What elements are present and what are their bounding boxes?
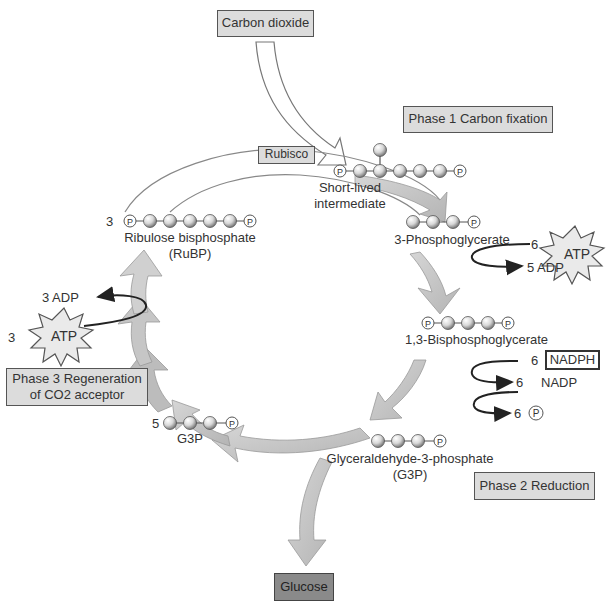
g3p-molecule: P — [372, 435, 447, 448]
atp-phase3-count: 3 — [8, 330, 15, 345]
rubisco-box: Rubisco — [258, 146, 315, 164]
svg-text:P: P — [505, 319, 511, 329]
calvin-cycle-diagram: P P P P P P — [0, 0, 614, 606]
g3p-recycled-label: G3P — [170, 431, 210, 447]
phase1-label-box: Phase 1 Carbon fixation — [403, 106, 553, 133]
phosphate-release-arrow — [474, 392, 518, 413]
phase3-label-line1: Phase 3 Regeneration — [7, 371, 147, 387]
svg-text:P: P — [127, 217, 133, 227]
atp-label-phase1: ATP — [557, 246, 597, 264]
svg-text:P: P — [247, 217, 253, 227]
bpg-molecule: P P — [422, 317, 514, 330]
svg-text:P: P — [457, 167, 463, 177]
nadp-label: NADP — [541, 375, 577, 390]
rubp-molecule: P P — [124, 215, 256, 228]
intermediate-molecule: P P — [334, 144, 466, 178]
nadph-to-nadp-arrow — [472, 361, 518, 382]
g3p-label-line2: (G3P) — [320, 467, 500, 483]
svg-text:P: P — [437, 437, 443, 447]
svg-text:P: P — [471, 218, 477, 228]
diagram-graphics: P P P P P P — [0, 0, 614, 606]
intermediate-label-line2: intermediate — [310, 196, 390, 212]
rubp-count: 3 — [106, 214, 113, 229]
glucose-box: Glucose — [274, 573, 334, 601]
g3p-label: Glyceraldehyde-3-phosphate (G3P) — [320, 451, 500, 484]
carbon-dioxide-box: Carbon dioxide — [217, 10, 314, 37]
intermediate-label-line1: Short-lived — [310, 180, 390, 196]
nadph-box: NADPH — [545, 350, 600, 370]
g3p-recycled-count: 5 — [152, 416, 159, 431]
svg-text:P: P — [337, 167, 343, 177]
pga-label: 3-Phosphoglycerate — [392, 232, 512, 248]
adp-phase3-label: 3 ADP — [42, 290, 79, 305]
svg-text:P: P — [229, 419, 235, 429]
svg-text:P: P — [533, 408, 540, 419]
nadp-count: 6 — [516, 375, 523, 390]
rubp-label-line1: Ribulose bisphosphate — [115, 230, 265, 246]
rubp-label: Ribulose bisphosphate (RuBP) — [115, 230, 265, 263]
phosphate-released-icon: P — [529, 406, 543, 420]
nadph-count: 6 — [531, 353, 538, 368]
svg-text:P: P — [425, 319, 431, 329]
g3p-label-line1: Glyceraldehyde-3-phosphate — [320, 451, 500, 467]
phosphate-count: 6 — [514, 406, 521, 421]
atp-label-phase3: ATP — [42, 328, 86, 346]
bpg-label: 1,3-Bisphosphoglycerate — [405, 332, 535, 348]
atp-phase1-count: 6 — [531, 237, 538, 252]
phase3-label-line2: of CO2 acceptor — [7, 387, 147, 403]
phase3-label-box: Phase 3 Regeneration of CO2 acceptor — [6, 368, 148, 406]
intermediate-label: Short-lived intermediate — [310, 180, 390, 213]
rubp-label-line2: (RuBP) — [115, 246, 265, 262]
